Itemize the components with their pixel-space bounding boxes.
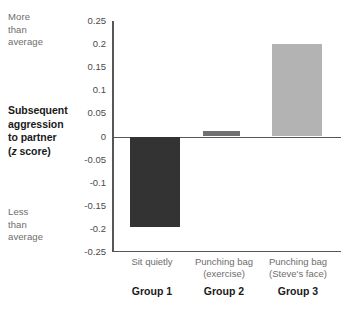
axis-annotation-low-line2: than xyxy=(8,219,27,230)
axis-annotation-high-line2: than xyxy=(8,24,27,35)
chart-container: More than average Less than average Subs… xyxy=(0,0,352,309)
axis-annotation-low-line1: Less xyxy=(8,206,28,217)
bar-group-2 xyxy=(203,131,240,137)
y-axis-tick-label: 0.15 xyxy=(68,62,106,72)
y-axis-tick-labels: 0.250.20.150.10.050-0.05-0.1-0.15-0.2-0.… xyxy=(68,0,106,309)
x-axis-category-3: Punching bag(Steve's face)Group 3 xyxy=(250,256,346,297)
y-axis-tick-label: 0 xyxy=(68,132,106,142)
category-label-line2: (Steve's face) xyxy=(250,268,346,280)
y-axis-tick-label: -0.2 xyxy=(68,224,106,234)
bar-group-3 xyxy=(272,44,322,136)
bar-group-1 xyxy=(130,137,180,227)
y-axis-tick-label: -0.25 xyxy=(68,247,106,257)
x-axis-category-labels: Sit quietly Group 1Punching bag(exercise… xyxy=(112,256,341,306)
y-axis-tick-label: -0.15 xyxy=(68,201,106,211)
y-axis-title-line4: (z score) xyxy=(8,145,51,157)
y-axis-tick-label: 0.1 xyxy=(68,85,106,95)
y-axis-tick-label: 0.05 xyxy=(68,108,106,118)
axis-annotation-low-line3: average xyxy=(8,231,43,242)
plot-area xyxy=(112,21,341,252)
axis-annotation-high-line3: average xyxy=(8,36,43,47)
y-axis-title-line3: to partner xyxy=(8,131,57,143)
category-label-line1: Punching bag xyxy=(250,256,346,268)
y-axis-tick-label: -0.05 xyxy=(68,155,106,165)
category-group-label: Group 3 xyxy=(250,285,346,297)
y-axis-tick-label: 0.2 xyxy=(68,39,106,49)
y-axis-title-line1: Subsequent xyxy=(8,104,68,116)
y-axis-tick-label: 0.25 xyxy=(68,16,106,26)
x-axis-line xyxy=(112,251,341,253)
axis-annotation-high-line1: More xyxy=(8,11,30,22)
y-axis-title-line2: aggression xyxy=(8,118,64,130)
y-axis-tick-label: -0.1 xyxy=(68,178,106,188)
